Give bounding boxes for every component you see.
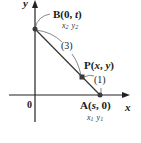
point-p bbox=[80, 75, 85, 80]
leader-pa-top bbox=[84, 75, 94, 77]
point-b-label: B(0, t) bbox=[53, 8, 82, 21]
x-axis-label: x bbox=[124, 101, 131, 113]
y-axis-arrow-icon bbox=[32, 0, 38, 8]
ratio-label-bp: (3) bbox=[61, 40, 73, 52]
leader-bp-top bbox=[36, 30, 62, 42]
point-p-label: P(x, y) bbox=[84, 59, 114, 72]
y-axis-label: y bbox=[21, 0, 28, 9]
point-a-annotation: x1y1 bbox=[86, 113, 103, 122]
point-a bbox=[98, 93, 103, 98]
point-b-annotation: x2y2 bbox=[61, 21, 78, 30]
leader-b-label bbox=[35, 14, 50, 28]
origin-label: 0 bbox=[27, 99, 32, 110]
section-formula-diagram: y x 0 B(0, t) x2y2 (3) P(x, y) (1) A(s, … bbox=[0, 0, 141, 143]
x-axis-arrow-icon bbox=[122, 92, 130, 98]
ratio-label-pa: (1) bbox=[94, 74, 106, 86]
diagram-svg: y x 0 B(0, t) x2y2 (3) P(x, y) (1) A(s, … bbox=[0, 0, 141, 143]
point-b bbox=[33, 27, 38, 32]
point-a-label: A(s, 0) bbox=[80, 99, 111, 112]
